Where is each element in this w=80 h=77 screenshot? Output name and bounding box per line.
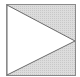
play-icon bbox=[6, 4, 76, 76]
play-button[interactable] bbox=[6, 4, 76, 76]
